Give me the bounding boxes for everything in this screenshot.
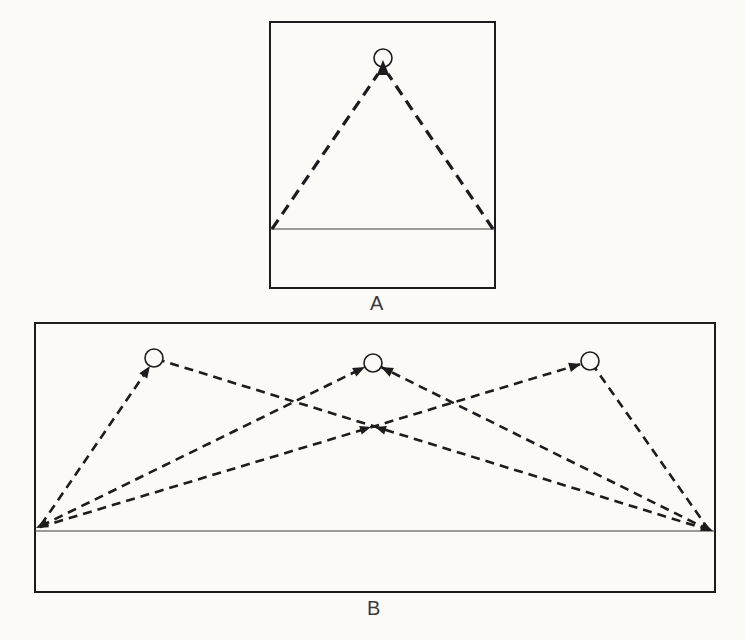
flight-path <box>388 74 493 229</box>
flight-path <box>40 364 581 527</box>
flight-path <box>41 366 150 525</box>
panel-label-B: B <box>367 598 381 618</box>
target-circle <box>581 352 599 370</box>
flight-path <box>163 361 709 530</box>
flight-path <box>41 367 365 526</box>
target-circle <box>364 354 382 372</box>
panel-label-A: A <box>370 293 384 313</box>
diagram-canvas <box>0 0 745 640</box>
figure: A B <box>0 0 745 640</box>
flight-path <box>272 74 378 229</box>
target-circle <box>145 349 163 367</box>
flight-path <box>595 368 709 530</box>
arrowhead <box>34 519 49 533</box>
arrowhead <box>359 423 372 435</box>
flight-path <box>381 367 709 530</box>
arrowhead <box>700 522 715 535</box>
